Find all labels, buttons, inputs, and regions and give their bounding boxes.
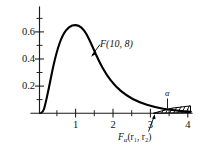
alpha-label: α: [165, 89, 169, 98]
f-distribution-figure: 0.2 0.4 0.6 1 2 3 4 F(10, 8) α Fα(r₁, r₂…: [0, 0, 203, 154]
y-tick-label-0-2: 0.2: [8, 81, 35, 92]
plot-canvas: [0, 0, 203, 154]
x-tick-label-2: 2: [103, 120, 123, 131]
y-tick-label-0-6: 0.6: [8, 27, 35, 38]
critical-value-args: (r₁, r₂): [127, 132, 151, 142]
curve-label-f-10-8: F(10, 8): [100, 39, 133, 49]
x-tick-label-4: 4: [178, 120, 198, 131]
x-tick-label-3: 3: [140, 120, 160, 131]
x-tick-label-1: 1: [66, 120, 86, 131]
critical-value-label: Fα(r₁, r₂): [118, 133, 151, 144]
y-tick-label-0-4: 0.4: [8, 54, 35, 65]
